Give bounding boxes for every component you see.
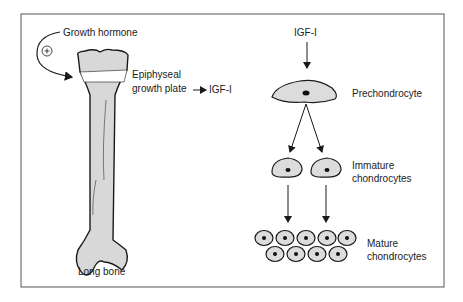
label-prechondrocyte: Prechondrocyte — [352, 88, 422, 100]
label-mature: Mature — [367, 238, 398, 250]
prechondrocyte-cell — [272, 80, 336, 102]
label-immature: Immature — [352, 160, 394, 172]
label-mature-chondrocytes: chondrocytes — [367, 251, 426, 263]
label-growth-plate: growth plate — [132, 83, 186, 95]
immature-chondrocytes — [272, 158, 341, 177]
label-igf-top: IGF-I — [294, 27, 317, 39]
label-igf-left: IGF-I — [209, 84, 232, 96]
label-epiphyseal: Epiphyseal — [132, 69, 181, 81]
mature-chondrocytes — [255, 231, 356, 262]
label-immature-chondrocytes: chondrocytes — [352, 173, 411, 185]
long-bone-illustration — [76, 49, 128, 275]
label-long-bone: Long bone — [78, 266, 125, 278]
label-growth-hormone: Growth hormone — [63, 27, 137, 39]
